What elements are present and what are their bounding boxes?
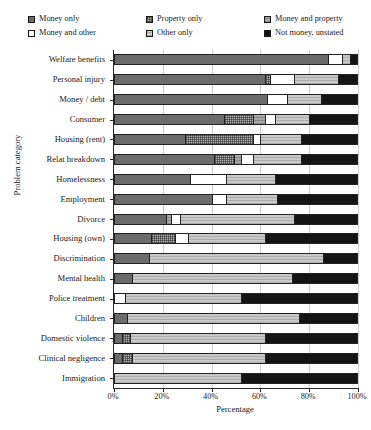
y-tick-mark [110, 60, 114, 61]
bar-row [114, 154, 358, 165]
bar-row [114, 114, 358, 125]
y-tick-mark [110, 358, 114, 359]
y-tick-mark [110, 239, 114, 240]
bar-segment-money-only [115, 234, 151, 243]
y-tick-mark [110, 299, 114, 300]
y-tick-mark [110, 338, 114, 339]
y-tick-mark [110, 80, 114, 81]
stacked-bar [114, 194, 358, 205]
bar-segment-not-money-unstated [292, 274, 357, 283]
x-gridline [358, 50, 359, 388]
bar-segment-other-only [253, 155, 301, 164]
legend-item-not-money: Not money, unstated [264, 26, 371, 40]
bar-row [114, 373, 358, 384]
y-axis-label-housing-rent: Housing (rent) [55, 134, 105, 145]
bar-segment-other-only [342, 55, 349, 64]
x-axis-title: Percentage [113, 404, 357, 414]
bar-segment-money-only [115, 334, 122, 343]
legend-item-money-only: Money only [28, 12, 146, 26]
stacked-bar [114, 333, 358, 344]
bar-row [114, 74, 358, 85]
bar-row [114, 353, 358, 364]
bar-segment-property-only [122, 354, 132, 363]
bar-segment-other-only [132, 354, 265, 363]
y-axis-label-clinical-negligence: Clinical negligence [38, 353, 105, 364]
bar-row [114, 174, 358, 185]
legend-swatch-icon [146, 16, 153, 23]
bar-row [114, 333, 358, 344]
y-tick-mark [110, 139, 114, 140]
bar-segment-property-only [214, 155, 233, 164]
x-axis-tick-labels: 0%20%40%60%80%100% [0, 392, 371, 404]
x-axis-tick-label: 80% [301, 392, 316, 401]
stacked-bar [114, 94, 358, 105]
bar-row [114, 313, 358, 324]
bar-segment-not-money-unstated [350, 55, 357, 64]
bar-segment-money-and-other [190, 175, 226, 184]
stacked-bar [114, 174, 358, 185]
legend-item-money-and-other: Money and other [28, 26, 146, 40]
bar-row [114, 134, 358, 145]
bar-segment-not-money-unstated [275, 175, 357, 184]
bar-segment-money-only [115, 274, 132, 283]
x-axis-tick-label: 0% [108, 392, 119, 401]
bar-segment-money-and-other [265, 115, 275, 124]
x-axis-tick-label: 20% [154, 392, 169, 401]
bar-segment-other-only [260, 135, 301, 144]
y-axis-label-welfare-benefits: Welfare benefits [49, 54, 105, 65]
stacked-bar [114, 54, 358, 65]
bar-segment-not-money-unstated [299, 314, 357, 323]
stacked-bar [114, 154, 358, 165]
bar-segment-money-and-property [253, 115, 265, 124]
y-tick-mark [110, 120, 114, 121]
bar-segment-money-only [115, 115, 224, 124]
legend-swatch-icon [146, 30, 153, 37]
y-tick-mark [110, 179, 114, 180]
bar-segment-money-only [115, 55, 328, 64]
stacked-bar [114, 293, 358, 304]
bar-segment-property-only [151, 234, 175, 243]
bar-segment-not-money-unstated [309, 115, 357, 124]
y-axis-label-divorce: Divorce [77, 214, 105, 225]
bar-segment-property-only [122, 334, 129, 343]
bar-segment-money-only [115, 75, 265, 84]
y-axis-label-domestic-violence: Domestic violence [41, 333, 105, 344]
bar-segment-money-only [115, 195, 212, 204]
bar-segment-money-only [115, 135, 185, 144]
bar-segment-money-and-other [241, 155, 253, 164]
y-axis-label-immigration: Immigration [62, 373, 105, 384]
y-tick-mark [110, 219, 114, 220]
stacked-bar [114, 233, 358, 244]
bar-segment-money-only [115, 314, 127, 323]
legend-label: Other only [157, 26, 193, 40]
y-tick-mark [110, 279, 114, 280]
stacked-bar [114, 134, 358, 145]
bar-segment-not-money-unstated [338, 75, 357, 84]
legend-label: Money only [39, 12, 79, 26]
legend-swatch-icon [28, 16, 35, 23]
stacked-bar [114, 373, 358, 384]
stacked-bar [114, 214, 358, 225]
y-tick-mark [110, 378, 114, 379]
bar-segment-other-only [115, 374, 241, 383]
bar-segment-not-money-unstated [265, 334, 357, 343]
stacked-bar [114, 114, 358, 125]
bar-segment-money-only [115, 354, 122, 363]
bar-segment-not-money-unstated [301, 135, 357, 144]
bar-segment-money-only [115, 254, 149, 263]
bar-segment-money-only [115, 215, 166, 224]
y-axis-title: Problem category [12, 105, 22, 225]
bar-segment-not-money-unstated [301, 155, 357, 164]
bar-segment-money-and-other [171, 215, 181, 224]
legend-item-other-only: Other only [146, 26, 264, 40]
bar-segment-property-only [224, 115, 253, 124]
bar-segment-money-only [115, 175, 190, 184]
bar-row [114, 194, 358, 205]
bar-segment-other-only [130, 334, 266, 343]
legend-label: Property only [157, 12, 202, 26]
legend-swatch-icon [28, 30, 35, 37]
bar-segment-money-and-other [115, 294, 125, 303]
plot-area [113, 50, 358, 389]
y-axis-label-police-treatment: Police treatment [49, 293, 105, 304]
bar-segment-other-only [149, 254, 323, 263]
